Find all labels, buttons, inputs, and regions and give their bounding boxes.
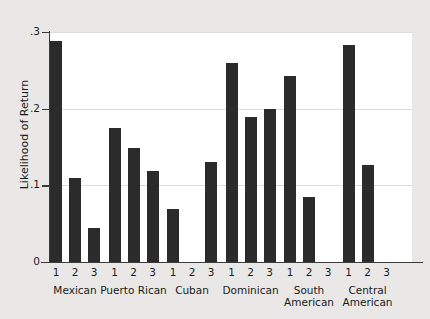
- bar: [69, 178, 81, 262]
- y-axis-title: Likelihood of Return: [18, 50, 31, 220]
- bar: [50, 41, 62, 262]
- x-axis-line: [41, 262, 423, 263]
- x-tick-label: 3: [86, 266, 102, 278]
- bar: [88, 228, 100, 262]
- x-tick-label: 1: [341, 266, 357, 278]
- x-tick-label: 3: [203, 266, 219, 278]
- bar: [284, 76, 296, 262]
- chart-figure: 0.1.2.3 Likelihood of Return 12312312312…: [0, 0, 430, 319]
- x-tick-label: 1: [282, 266, 298, 278]
- x-tick-label: 2: [243, 266, 259, 278]
- bar: [128, 148, 140, 262]
- y-tick-label: .3: [18, 26, 40, 38]
- y-tick-label-text: .2: [30, 103, 40, 113]
- bar: [226, 63, 238, 262]
- x-tick-label: 2: [360, 266, 376, 278]
- x-tick-label: 2: [301, 266, 317, 278]
- x-tick-label: 1: [107, 266, 123, 278]
- bar: [303, 197, 315, 262]
- x-tick-label: 1: [165, 266, 181, 278]
- y-tick-label-text: .3: [30, 26, 40, 36]
- x-tick-label: 3: [262, 266, 278, 278]
- x-tick-label: 2: [126, 266, 142, 278]
- y-tick-mark: [42, 185, 50, 186]
- y-tick-mark: [42, 262, 50, 263]
- y-tick-label-text: .1: [30, 179, 40, 189]
- group-label: Central American: [323, 284, 413, 308]
- x-tick-label: 3: [145, 266, 161, 278]
- x-tick-label: 2: [67, 266, 83, 278]
- bar: [147, 171, 159, 262]
- bar: [343, 45, 355, 262]
- bar: [205, 162, 217, 262]
- bar: [362, 165, 374, 262]
- x-tick-label: 1: [48, 266, 64, 278]
- bar-series: [50, 32, 412, 262]
- y-tick-label-text: 0: [33, 256, 40, 266]
- bar: [109, 128, 121, 262]
- x-tick-label: 3: [379, 266, 395, 278]
- bar: [167, 209, 179, 262]
- x-tick-label: 3: [320, 266, 336, 278]
- bar: [245, 117, 257, 262]
- x-tick-label: 1: [224, 266, 240, 278]
- y-tick-label: 0: [18, 256, 40, 268]
- x-tick-label: 2: [184, 266, 200, 278]
- y-tick-mark: [42, 109, 50, 110]
- y-tick-mark: [42, 32, 50, 33]
- bar: [264, 109, 276, 262]
